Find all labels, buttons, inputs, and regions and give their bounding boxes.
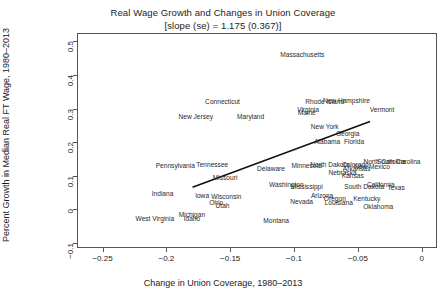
x-tick-label: −0.2 <box>158 254 174 263</box>
point-label: Idaho <box>184 215 201 222</box>
y-tick-label: 0.2 <box>66 142 75 153</box>
y-tick-label: 0.1 <box>66 176 75 187</box>
point-label: New Jersey <box>178 113 212 120</box>
point-label: Delaware <box>257 166 285 173</box>
point-label: Alabama <box>314 138 340 145</box>
point-label: Connecticut <box>205 99 240 106</box>
x-tick <box>166 248 167 252</box>
y-tick-label: −0.1 <box>66 243 75 259</box>
point-label: Florida <box>344 138 364 145</box>
x-tick-label: 0 <box>419 254 423 263</box>
point-label: South Carolina <box>377 159 421 166</box>
point-label: New Hampshire <box>323 98 370 105</box>
x-tick <box>230 248 231 252</box>
point-label: Pennsylvania <box>156 163 195 170</box>
y-tick-label: 0.3 <box>66 109 75 120</box>
chart-subtitle: [slope (se) = 1.175 (0.367)] <box>0 20 446 31</box>
point-label: Tennessee <box>196 161 228 168</box>
point-label: Maryland <box>237 113 264 120</box>
point-label: West Virginia <box>136 215 175 222</box>
point-label: Kansas <box>342 173 364 180</box>
x-tick <box>358 248 359 252</box>
point-label: Vermont <box>370 107 395 114</box>
x-tick <box>294 248 295 252</box>
y-tick-label: 0 <box>66 209 75 213</box>
x-axis-label: Change in Union Coverage, 1980–2013 <box>0 278 446 288</box>
x-tick <box>422 248 423 252</box>
y-tick-label: 0.5 <box>66 41 75 52</box>
point-label: Texas <box>388 185 405 192</box>
point-label: Mississippi <box>291 183 323 190</box>
point-label: Oklahoma <box>363 204 393 211</box>
point-label: Indiana <box>152 191 174 198</box>
point-label: Nevada <box>290 198 313 205</box>
chart-title: Real Wage Growth and Changes in Union Co… <box>0 7 446 18</box>
x-tick-label: −0.05 <box>348 254 368 263</box>
point-label: Iowa <box>195 193 209 200</box>
point-label: Louisiana <box>325 200 353 207</box>
point-label: Kentucky <box>353 196 380 203</box>
point-label: Massachusetts <box>280 52 324 59</box>
point-label: New York <box>311 124 339 131</box>
x-tick-label: −0.15 <box>220 254 240 263</box>
y-axis-label: Percent Growth in Median Real FT Wage, 1… <box>1 52 12 242</box>
x-tick-label: −0.1 <box>286 254 302 263</box>
chart-container: Real Wage Growth and Changes in Union Co… <box>0 0 446 294</box>
point-label: Maine <box>298 110 316 117</box>
regression-line <box>77 33 437 248</box>
x-tick <box>103 248 104 252</box>
point-label: Utah <box>216 203 230 210</box>
plot-area: MassachusettsConnecticutRhode IslandNew … <box>77 33 437 248</box>
y-tick-label: 0.4 <box>66 75 75 86</box>
x-tick-label: −0.25 <box>92 254 112 263</box>
point-label: Montana <box>263 218 289 225</box>
point-label: Missouri <box>213 175 238 182</box>
